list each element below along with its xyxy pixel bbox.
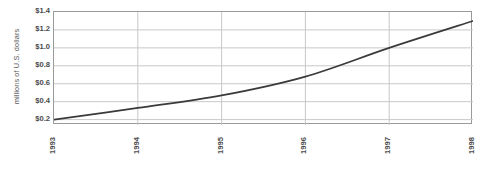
x-axis-tick-label: 1998	[468, 114, 476, 154]
x-axis-tick-label: 1993	[49, 114, 57, 154]
line-chart: millions of U.S. dollars $1.4$1.2$1.0$0.…	[0, 0, 495, 174]
x-axis-tick-label: 1997	[384, 114, 392, 154]
x-axis-tick-label: 1996	[300, 114, 308, 154]
x-axis-tick-label: 1994	[133, 114, 141, 154]
x-axis-tick-labels: 199319941995199619971998	[0, 0, 495, 174]
x-axis-tick-label: 1995	[217, 114, 225, 154]
